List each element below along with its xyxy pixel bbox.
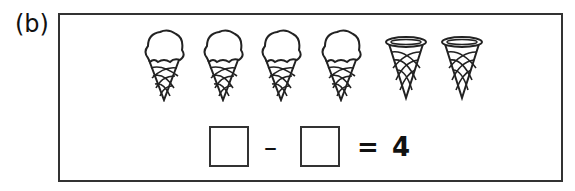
- answer-box-2[interactable]: [300, 126, 340, 167]
- ice-cream-cone-icon: [319, 28, 363, 102]
- empty-cone-icon: [384, 28, 428, 102]
- empty-cone-icon: [440, 28, 484, 102]
- ice-cream-cone-icon: [201, 28, 245, 102]
- result-value: 4: [392, 127, 410, 167]
- answer-box-1[interactable]: [209, 126, 249, 167]
- ice-cream-cone-icon: [142, 28, 186, 102]
- minus-sign: –: [264, 127, 277, 167]
- ice-cream-cone-icon: [259, 28, 303, 102]
- equals-sign: =: [357, 127, 379, 167]
- problem-label: (b): [15, 10, 49, 38]
